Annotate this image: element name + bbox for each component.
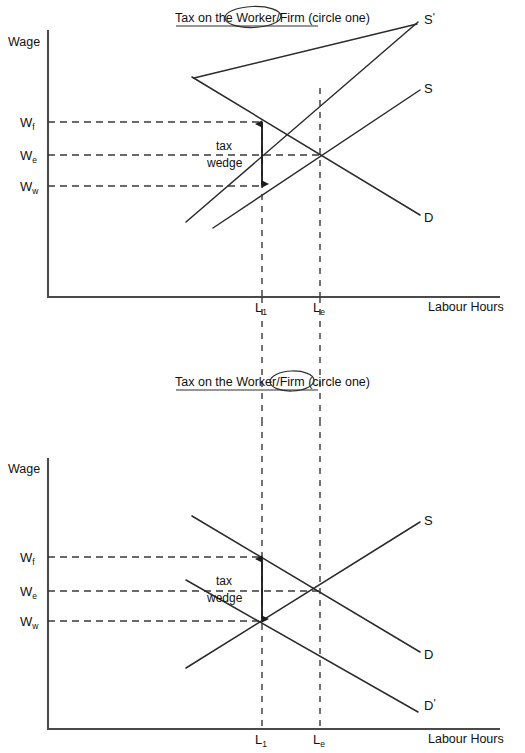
chart2-label-s: S <box>424 513 433 528</box>
chart2-label-d-prime: D' <box>424 697 436 713</box>
chart1-ytick-we: We <box>20 148 37 165</box>
chart1-label-s: S <box>424 81 433 96</box>
chart1-ytick-wf: Wf <box>20 115 35 132</box>
chart1-label-d: D <box>424 210 433 225</box>
chart1-wedge-label-line1: tax <box>216 139 232 153</box>
chart1-title: Tax on the Worker/Firm (circle one) <box>175 11 370 25</box>
chart1-x-axis-label: Labour Hours <box>428 300 504 314</box>
chart1-xtick-le: Le <box>313 300 325 317</box>
chart1-curve-s <box>213 90 420 228</box>
chart2-title-suffix: (circle one) <box>305 375 370 389</box>
chart2-xtick-le: Le <box>313 732 325 749</box>
diagram-stage: Tax on the Worker/Firm (circle one) Wage… <box>0 0 525 753</box>
chart1-ytick-ww: Ww <box>20 179 39 196</box>
chart2-wedge-label-line2: wedge <box>206 591 243 605</box>
chart2-axes <box>48 458 500 729</box>
chart2-ytick-wf: Wf <box>20 550 35 567</box>
tax-wedge-figure: Tax on the Worker/Firm (circle one) Wage… <box>0 0 525 753</box>
chart1-axes <box>48 30 500 297</box>
chart2-x-axis-label: Labour Hours <box>428 732 504 746</box>
chart1-wedge-label-line2: wedge <box>206 156 243 170</box>
chart2-xtick-l1: L1 <box>255 732 267 749</box>
chart1-title-suffix: (circle one) <box>305 11 370 25</box>
chart2-wedge-label-line1: tax <box>216 574 232 588</box>
chart2-label-d: D <box>424 647 433 662</box>
chart-tax-on-worker: Tax on the Worker/Firm (circle one) Wage… <box>8 6 504 317</box>
chart-tax-on-firm: Tax on the Worker/Firm (circle one) Wage… <box>8 370 504 749</box>
chart1-title-circled: Worker <box>236 11 276 25</box>
chart1-y-axis-label: Wage <box>8 35 40 49</box>
chart1-xtick-l1: L1 <box>255 300 267 317</box>
chart2-ytick-ww: Ww <box>20 614 39 631</box>
chart2-title-prefix: Tax on the Worker/ <box>175 375 280 389</box>
chart2-title-circled: Firm <box>280 375 305 389</box>
chart2-ytick-we: We <box>20 584 37 601</box>
chart1-label-s-prime: S' <box>424 11 435 27</box>
chart2-y-axis-label: Wage <box>8 462 40 476</box>
